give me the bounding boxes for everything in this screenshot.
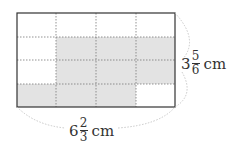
height-denominator: 6 xyxy=(192,65,200,76)
height-label: 3 5 6 cm xyxy=(181,51,226,76)
height-unit: cm xyxy=(204,55,227,73)
height-whole: 3 xyxy=(181,55,191,73)
width-unit: cm xyxy=(92,122,115,140)
height-fraction: 5 6 xyxy=(192,51,200,76)
width-label: 6 2 3 cm xyxy=(69,118,114,143)
width-whole: 6 xyxy=(69,122,79,140)
height-numerator: 5 xyxy=(192,51,200,62)
width-denominator: 3 xyxy=(80,132,88,143)
shaded-cells xyxy=(17,37,175,107)
width-numerator: 2 xyxy=(80,118,88,129)
rectangle-diagram xyxy=(0,0,241,156)
width-fraction: 2 3 xyxy=(80,118,88,143)
